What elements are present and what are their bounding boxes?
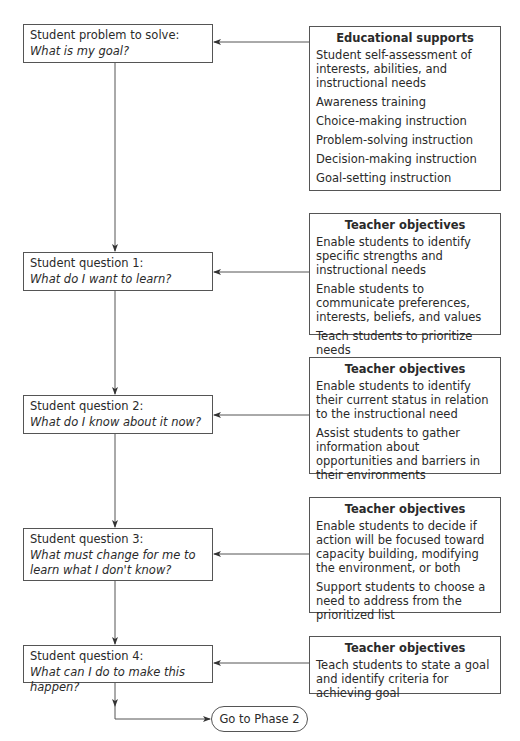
- supports-title: Educational supports: [316, 31, 494, 45]
- student-question-3-box: Student question 3: What must change for…: [23, 528, 213, 581]
- question-label: Student question 1:: [30, 256, 206, 272]
- support-item: Choice-making instruction: [316, 114, 494, 128]
- objective-item: Assist students to gather information ab…: [316, 426, 494, 482]
- objective-item: Teach students to prioritize needs: [316, 329, 494, 357]
- question-label: Student question 4:: [30, 649, 206, 665]
- support-item: Problem-solving instruction: [316, 133, 494, 147]
- question-text: What do I know about it now?: [30, 415, 206, 431]
- go-to-phase-2-terminal: Go to Phase 2: [211, 706, 308, 732]
- teacher-objectives-box-3: Teacher objectives Enable students to de…: [309, 497, 501, 613]
- objectives-title: Teacher objectives: [316, 502, 494, 516]
- objective-item: Enable students to identify specific str…: [316, 235, 494, 277]
- question-label: Student question 2:: [30, 399, 206, 415]
- support-item: Student self-assessment of interests, ab…: [316, 48, 494, 90]
- teacher-objectives-box-2: Teacher objectives Enable students to id…: [309, 357, 501, 474]
- student-question-1-box: Student question 1: What do I want to le…: [23, 252, 213, 291]
- student-question-2-box: Student question 2: What do I know about…: [23, 395, 213, 434]
- question-text: What must change for me to learn what I …: [30, 548, 206, 579]
- question-text: What can I do to make this happen?: [30, 665, 206, 696]
- objective-item: Teach students to state a goal and ident…: [316, 658, 494, 700]
- objective-item: Enable students to decide if action will…: [316, 519, 494, 575]
- educational-supports-box: Educational supports Student self-assess…: [309, 26, 501, 191]
- question-label: Student question 3:: [30, 532, 206, 548]
- objective-item: Enable students to communicate preferenc…: [316, 282, 494, 324]
- problem-question: What is my goal?: [30, 44, 206, 60]
- problem-box: Student problem to solve: What is my goa…: [23, 24, 213, 63]
- objective-item: Enable students to identify their curren…: [316, 379, 494, 421]
- question-text: What do I want to learn?: [30, 272, 206, 288]
- support-item: Decision-making instruction: [316, 152, 494, 166]
- objectives-title: Teacher objectives: [316, 362, 494, 376]
- student-question-4-box: Student question 4: What can I do to mak…: [23, 645, 213, 683]
- support-item: Goal-setting instruction: [316, 171, 494, 185]
- support-item: Awareness training: [316, 95, 494, 109]
- objectives-title: Teacher objectives: [316, 641, 494, 655]
- teacher-objectives-box-4: Teacher objectives Teach students to sta…: [309, 636, 501, 694]
- objective-item: Support students to choose a need to add…: [316, 580, 494, 622]
- flowchart: Student problem to solve: What is my goa…: [0, 0, 520, 741]
- teacher-objectives-box-1: Teacher objectives Enable students to id…: [309, 213, 501, 335]
- objectives-title: Teacher objectives: [316, 218, 494, 232]
- problem-label: Student problem to solve:: [30, 28, 206, 44]
